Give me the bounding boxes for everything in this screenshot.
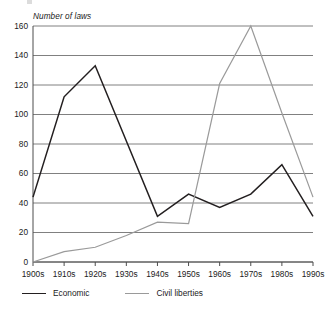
y-tick-label: 140 bbox=[2, 50, 28, 60]
y-tick-label: 20 bbox=[2, 227, 28, 237]
y-tick-label: 120 bbox=[2, 80, 28, 90]
y-tick-label: 0 bbox=[2, 257, 28, 267]
x-tick-marks-group bbox=[33, 262, 313, 266]
y-tick-label: 100 bbox=[2, 109, 28, 119]
x-tick-label: 1970s bbox=[239, 269, 262, 279]
x-tick-label: 1930s bbox=[115, 269, 138, 279]
y-tick-label: 80 bbox=[2, 139, 28, 149]
series-line-economic bbox=[33, 66, 313, 216]
line-chart: Number of laws 020406080100120140160 190… bbox=[0, 0, 332, 311]
legend-item-economic: Economic bbox=[22, 288, 89, 298]
legend-label-civil-liberties: Civil liberties bbox=[156, 288, 203, 298]
legend-swatch-economic bbox=[22, 293, 46, 294]
legend-swatch-civil-liberties bbox=[125, 293, 149, 294]
plot-area bbox=[0, 0, 332, 311]
y-tick-label: 40 bbox=[2, 198, 28, 208]
x-tick-label: 1950s bbox=[177, 269, 200, 279]
x-tick-label: 1980s bbox=[271, 269, 294, 279]
x-tick-label: 1990s bbox=[302, 269, 325, 279]
y-tick-label: 160 bbox=[2, 21, 28, 31]
gridlines-group bbox=[33, 26, 313, 262]
x-tick-label: 1960s bbox=[208, 269, 231, 279]
y-tick-label: 60 bbox=[2, 168, 28, 178]
x-tick-label: 1920s bbox=[84, 269, 107, 279]
legend-label-economic: Economic bbox=[53, 288, 89, 298]
legend-item-civil-liberties: Civil liberties bbox=[125, 288, 203, 298]
x-tick-label: 1910s bbox=[53, 269, 76, 279]
x-tick-label: 1900s bbox=[22, 269, 45, 279]
x-tick-label: 1940s bbox=[146, 269, 169, 279]
chart-legend: Economic Civil liberties bbox=[22, 288, 203, 298]
